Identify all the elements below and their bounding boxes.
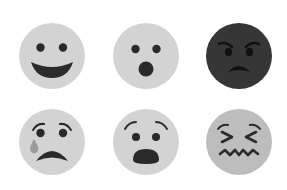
emoji-grid: Happy Surprised Angry [0,0,287,190]
happy-face[interactable]: Happy [18,22,86,90]
confounded-face[interactable]: Confounded [205,108,273,176]
angry-face-icon [205,22,273,90]
crying-face[interactable]: Crying [18,108,86,176]
crying-face-icon [18,108,86,176]
angry-face[interactable]: Angry [205,22,273,90]
happy-face-icon [18,22,86,90]
confounded-face-icon [205,108,273,176]
shocked-face-icon [112,108,180,176]
surprised-face[interactable]: Surprised [112,22,180,90]
surprised-face-icon [112,22,180,90]
shocked-face[interactable]: Shocked [112,108,180,176]
